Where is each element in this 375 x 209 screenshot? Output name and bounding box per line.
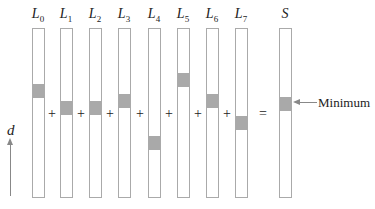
ladder-column <box>89 28 102 198</box>
operator: + <box>165 106 173 122</box>
column-label: L5 <box>177 6 189 24</box>
minimum-band <box>119 94 130 108</box>
minimum-band <box>149 136 160 150</box>
operator: + <box>223 106 231 122</box>
column-label: L7 <box>235 6 247 24</box>
operator: = <box>259 106 267 122</box>
ladder-column <box>177 28 190 198</box>
column-label: S <box>282 6 289 24</box>
up-arrow-icon <box>10 144 11 196</box>
operator: + <box>48 106 56 122</box>
minimum-label: Minimum <box>318 95 370 111</box>
minimum-band <box>90 101 101 115</box>
minimum-band <box>280 97 291 111</box>
ladder-column <box>148 28 161 198</box>
ladder-column <box>60 28 73 198</box>
operator: + <box>77 106 85 122</box>
operator: + <box>106 106 114 122</box>
minimum-band <box>61 101 72 115</box>
ladder-column <box>206 28 219 198</box>
operator: + <box>194 106 202 122</box>
left-arrow-icon <box>299 102 317 103</box>
ladder-column <box>279 28 292 198</box>
column-label: L0 <box>32 6 44 24</box>
axis-label-d: d <box>7 122 15 139</box>
column-label: L4 <box>148 6 160 24</box>
column-label: L1 <box>60 6 72 24</box>
minimum-band <box>207 94 218 108</box>
column-label: L2 <box>89 6 101 24</box>
ladder-column <box>118 28 131 198</box>
column-label: L6 <box>206 6 218 24</box>
operator: + <box>136 106 144 122</box>
ladder-column <box>32 28 45 198</box>
ladder-column <box>235 28 248 198</box>
minimum-band <box>236 116 247 130</box>
minimum-band <box>178 73 189 87</box>
column-label: L3 <box>118 6 130 24</box>
minimum-band <box>33 84 44 98</box>
